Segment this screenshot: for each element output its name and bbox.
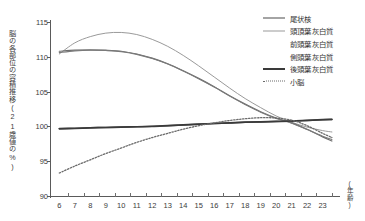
chart-legend: 尾状核頭頂葉灰白質前頭葉灰白質側頭葉灰白質後頭葉灰白質小脳: [263, 12, 363, 88]
legend-swatch-icon: [263, 76, 285, 86]
y-tick-mark: [47, 22, 50, 23]
legend-swatch-icon: [263, 26, 285, 36]
series-line: [59, 118, 332, 173]
series-line: [59, 119, 332, 129]
legend-item[interactable]: 前頭葉灰白質: [263, 37, 363, 50]
legend-item[interactable]: 尾状核: [263, 12, 363, 25]
legend-item[interactable]: 側頭葉灰白質: [263, 50, 363, 63]
legend-item-label: 尾状核: [290, 13, 312, 24]
legend-item[interactable]: 小脳: [263, 75, 363, 88]
legend-item-label: 小脳: [290, 76, 304, 87]
x-tick-label: 23: [314, 201, 332, 210]
x-axis-title: (年齢): [342, 180, 353, 208]
legend-swatch-icon: [263, 13, 285, 23]
y-tick-mark: [47, 57, 50, 58]
legend-item[interactable]: 頭頂葉灰白質: [263, 25, 363, 38]
legend-item-label: 側頭葉灰白質: [290, 51, 333, 62]
legend-item-label: 後頭葉灰白質: [290, 63, 333, 74]
legend-swatch-icon: [263, 51, 285, 61]
y-tick-mark: [47, 161, 50, 162]
legend-swatch-icon: [263, 38, 285, 48]
legend-item[interactable]: 後頭葉灰白質: [263, 62, 363, 75]
brain-volume-line-chart: 脳の各部位の容積推移(21歳値の%) 9095100105110115 6789…: [0, 0, 365, 221]
legend-swatch-icon: [263, 64, 285, 74]
y-tick-mark: [47, 126, 50, 127]
legend-item-label: 頭頂葉灰白質: [290, 25, 333, 36]
legend-item-label: 前頭葉灰白質: [290, 38, 333, 49]
y-tick-mark: [47, 92, 50, 93]
y-tick-mark: [47, 196, 50, 197]
